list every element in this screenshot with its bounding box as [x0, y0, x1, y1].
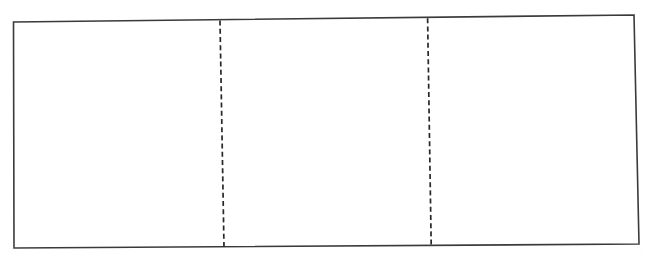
diagram-svg [0, 0, 645, 261]
panel-left [14, 21, 225, 248]
panel-right [428, 15, 639, 245]
figure-canvas [0, 0, 645, 261]
panel-center [220, 18, 431, 247]
